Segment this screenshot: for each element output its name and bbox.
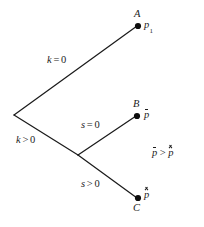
inequality-annotation: p>p xyxy=(152,148,173,159)
node-value-base-C: p xyxy=(144,190,149,201)
value-subscript-A: 1 xyxy=(149,27,153,35)
node-letter-A: A xyxy=(134,9,140,20)
value-glyph: p xyxy=(144,109,149,120)
macron-accent-icon xyxy=(153,147,156,148)
edge-value: 0 xyxy=(94,119,99,130)
circumflex-accent-icon xyxy=(144,187,149,190)
edge-value: 0 xyxy=(61,54,66,65)
branch-lines xyxy=(14,26,137,198)
tree-graphics xyxy=(0,0,204,227)
edge-line-split-to-C xyxy=(78,155,137,198)
node-value-C: p xyxy=(144,190,149,201)
macron-accent-icon xyxy=(145,109,148,110)
inequality-operator: > xyxy=(157,147,168,158)
edge-label-k-equals-0: k=0 xyxy=(47,55,66,66)
inequality-right-term: p xyxy=(168,148,173,159)
edge-operator: = xyxy=(52,54,61,65)
edge-value: 0 xyxy=(30,134,35,145)
edge-operator: > xyxy=(21,134,30,145)
inequality-left-term: p xyxy=(152,148,157,159)
edge-label-s-equals-0: s=0 xyxy=(81,120,100,131)
edge-line-root-to-A xyxy=(14,26,137,115)
value-glyph: p xyxy=(152,147,157,158)
edge-value: 0 xyxy=(94,178,99,189)
edge-label-k-greater-0: k>0 xyxy=(16,135,35,146)
terminal-node-dots xyxy=(134,23,141,201)
node-letter-C: C xyxy=(133,203,140,214)
node-value-base-B: p xyxy=(144,110,149,121)
node-dot-B xyxy=(134,113,140,119)
circumflex-accent-icon xyxy=(168,145,173,148)
node-value-A: p1 xyxy=(144,20,153,33)
node-dot-A xyxy=(135,23,141,29)
node-dot-C xyxy=(135,195,141,201)
tree-diagram-figure: k=0 k>0 s=0 s>0 A p1 B p C p p>p xyxy=(0,0,204,227)
node-letter-B: B xyxy=(133,99,139,110)
node-value-B: p xyxy=(144,110,149,121)
edge-label-s-greater-0: s>0 xyxy=(81,179,100,190)
